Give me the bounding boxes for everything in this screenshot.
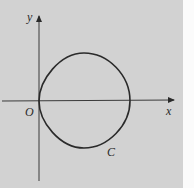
coordinate-diagram: y x O C <box>0 0 194 188</box>
y-axis-label: y <box>26 10 33 24</box>
origin-label: O <box>25 105 34 119</box>
curve-label: C <box>107 145 116 159</box>
x-axis <box>2 100 174 101</box>
x-axis-label: x <box>165 104 172 118</box>
